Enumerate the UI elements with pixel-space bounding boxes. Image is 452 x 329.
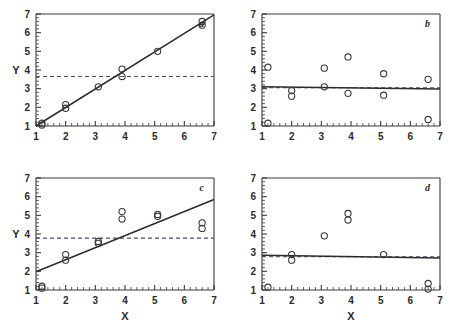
y-tick-label: 3: [24, 247, 30, 258]
panel-plot-a: a12345671234567Y: [0, 0, 226, 165]
y-tick-label: 1: [24, 121, 30, 132]
panel-plot-b: b12345671234567: [226, 0, 452, 165]
y-tick-label: 7: [250, 173, 256, 184]
x-tick-label: 1: [33, 131, 39, 142]
y-tick-label: 4: [24, 65, 30, 76]
y-tick-label: 1: [250, 285, 256, 296]
panel-plot-d: d12345671234567X: [226, 164, 452, 329]
y-tick-label: 2: [24, 266, 30, 277]
y-tick-label: 4: [250, 229, 256, 240]
x-tick-label: 4: [122, 131, 128, 142]
x-tick-label: 5: [378, 295, 384, 306]
panel-label-a: a: [199, 18, 204, 29]
data-point: [321, 65, 327, 71]
x-tick-label: 7: [211, 295, 217, 306]
x-tick-label: 2: [289, 295, 295, 306]
panel-c: c12345671234567YX: [0, 164, 226, 329]
data-points-a: [39, 18, 205, 128]
x-tick-label: 7: [437, 131, 443, 142]
y-tick-label: 7: [24, 9, 30, 20]
y-tick-label: 5: [250, 210, 256, 221]
data-point: [321, 233, 327, 239]
data-point: [381, 71, 387, 77]
panel-d: d12345671234567X: [226, 164, 452, 329]
y-tick-label: 5: [250, 46, 256, 57]
panel-label-b: b: [425, 18, 430, 29]
data-point: [425, 76, 431, 82]
x-tick-label: 6: [408, 295, 414, 306]
panel-plot-c: c12345671234567YX: [0, 164, 226, 329]
plot-frame: [262, 14, 440, 126]
y-tick-label: 6: [250, 27, 256, 38]
x-tick-label: 2: [63, 131, 69, 142]
x-tick-label: 3: [93, 295, 99, 306]
x-tick-label: 4: [348, 131, 354, 142]
y-tick-label: 7: [250, 9, 256, 20]
y-tick-label: 6: [24, 27, 30, 38]
x-tick-label: 7: [211, 131, 217, 142]
data-point: [119, 209, 125, 215]
axis-ticks: [262, 178, 440, 290]
data-points-c: [39, 209, 205, 292]
y-tick-label: 3: [250, 83, 256, 94]
y-tick-label: 2: [24, 102, 30, 113]
x-tick-label: 2: [289, 131, 295, 142]
axis-ticks: [36, 178, 214, 290]
y-tick-label: 1: [250, 121, 256, 132]
x-tick-label: 1: [259, 131, 265, 142]
x-tick-label: 1: [259, 295, 265, 306]
figure-container: a12345671234567Yb12345671234567c12345671…: [0, 0, 452, 329]
y-tick-label: 3: [250, 247, 256, 258]
x-tick-label: 7: [437, 295, 443, 306]
y-tick-label: 7: [24, 173, 30, 184]
x-tick-label: 4: [348, 295, 354, 306]
plot-frame: [36, 178, 214, 290]
x-tick-label: 5: [152, 295, 158, 306]
data-point: [425, 116, 431, 122]
x-tick-label: 6: [182, 295, 188, 306]
panel-label-d: d: [425, 182, 431, 193]
panel-b: b12345671234567: [226, 0, 452, 165]
x-tick-label: 6: [182, 131, 188, 142]
data-point: [345, 210, 351, 216]
x-tick-label: 3: [319, 131, 325, 142]
y-tick-label: 2: [250, 102, 256, 113]
panel-label-c: c: [200, 182, 205, 193]
y-tick-label: 1: [24, 285, 30, 296]
data-points-d: [265, 210, 431, 292]
data-point: [381, 92, 387, 98]
data-point: [321, 84, 327, 90]
y-tick-label: 5: [24, 210, 30, 221]
y-tick-label: 5: [24, 46, 30, 57]
x-axis-title-c: X: [121, 310, 129, 322]
data-point: [345, 90, 351, 96]
x-tick-label: 5: [378, 131, 384, 142]
axis-ticks: [262, 14, 440, 126]
x-tick-label: 4: [122, 295, 128, 306]
x-tick-label: 5: [152, 131, 158, 142]
data-point: [345, 54, 351, 60]
panel-a: a12345671234567Y: [0, 0, 226, 165]
x-tick-label: 3: [93, 131, 99, 142]
plot-frame: [262, 178, 440, 290]
data-point: [119, 216, 125, 222]
y-tick-label: 4: [24, 229, 30, 240]
data-points-b: [265, 54, 431, 126]
y-axis-title-c: Y: [12, 228, 20, 240]
x-tick-label: 1: [33, 295, 39, 306]
y-axis-title-a: Y: [12, 64, 20, 76]
x-tick-label: 6: [408, 131, 414, 142]
y-tick-label: 4: [250, 65, 256, 76]
x-axis-title-d: X: [347, 310, 355, 322]
x-tick-label: 2: [63, 295, 69, 306]
y-tick-label: 2: [250, 266, 256, 277]
y-tick-label: 6: [24, 191, 30, 202]
y-tick-label: 6: [250, 191, 256, 202]
x-tick-label: 3: [319, 295, 325, 306]
data-point: [119, 66, 125, 72]
data-point: [345, 217, 351, 223]
data-point: [265, 64, 271, 70]
y-tick-label: 3: [24, 83, 30, 94]
